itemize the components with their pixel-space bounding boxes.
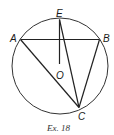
- geometry-figure: E A B O C Ex. 18: [0, 0, 114, 135]
- figure-caption: Ex. 18: [46, 123, 70, 133]
- label-c: C: [78, 111, 86, 122]
- label-o: O: [56, 70, 64, 81]
- label-b: B: [103, 33, 110, 44]
- label-a: A: [9, 33, 17, 44]
- label-e: E: [56, 8, 63, 19]
- segment-ac: [21, 40, 80, 108]
- segment-ec: [60, 20, 80, 108]
